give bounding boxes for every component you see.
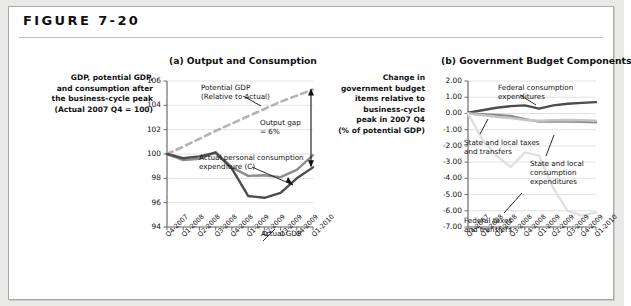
annotation-state-local-taxes: State and local taxes and transfers	[464, 138, 540, 156]
y-tick-label: 102	[139, 125, 161, 134]
y-tick-label: 106	[139, 76, 161, 85]
y-tick-label: -2.00	[434, 141, 462, 150]
y-tick-label: -4.00	[434, 173, 462, 182]
y-tick-label: -1.00	[434, 125, 462, 134]
panel-b-axis-caption: Change in government budget items relati…	[315, 73, 425, 136]
figure-card: FIGURE 7-20 (a) Output and Consumption G…	[8, 6, 614, 300]
annotation-federal-consumption: Federal consumption expenditures	[498, 83, 573, 101]
y-tick-label: 0.00	[434, 108, 462, 117]
y-tick-label: 98	[139, 173, 161, 182]
annotation-actual-consumption: Actual personal consumption expenditure …	[199, 153, 304, 171]
y-tick-label: -5.00	[434, 190, 462, 199]
y-tick-label: 96	[139, 198, 161, 207]
y-tick-label: 100	[139, 149, 161, 158]
panel-b-caption-text: Change in government budget items relati…	[338, 73, 425, 135]
figure-header-rule	[19, 37, 603, 38]
panel-a-caption-text: GDP, potential GDP, and consumption afte…	[52, 73, 153, 114]
annotation-output-gap: Output gap = 6%	[260, 118, 301, 136]
y-tick-label: 94	[139, 222, 161, 231]
y-tick-label: -7.00	[434, 222, 462, 231]
panel-b-title: (b) Government Budget Components	[441, 55, 631, 66]
panel-a-title: (a) Output and Consumption	[169, 55, 317, 66]
y-tick-label: 2.00	[434, 76, 462, 85]
y-tick-label: 1.00	[434, 92, 462, 101]
annotation-state-local-consumption: State and local consumption expenditures	[530, 159, 584, 186]
annotation-federal-taxes: Federal taxes and transfers	[464, 216, 512, 234]
figure-label: FIGURE 7-20	[23, 13, 140, 28]
y-tick-label: 104	[139, 100, 161, 109]
annotation-potential-gdp: Potential GDP (Relative to Actual)	[201, 83, 270, 101]
annotation-actual-gdp: Actual GDP	[261, 229, 301, 238]
panel-a-axis-caption: GDP, potential GDP, and consumption afte…	[25, 73, 153, 115]
y-tick-label: -6.00	[434, 206, 462, 215]
y-tick-label: -3.00	[434, 157, 462, 166]
